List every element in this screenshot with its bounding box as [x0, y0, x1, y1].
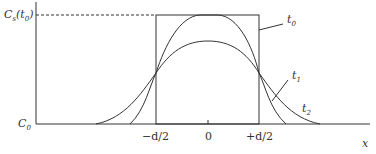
diffusion-profile-diagram	[0, 0, 376, 154]
leader-t1	[272, 80, 288, 101]
tick-label-pos: +d/2	[246, 131, 273, 142]
curve-label-t0: t0	[287, 14, 296, 28]
tick-label-neg: −d/2	[142, 131, 169, 142]
curve-label-t1: t1	[292, 70, 301, 84]
leader-t0	[259, 24, 283, 30]
label-cs-t0: Cs(t0)	[4, 9, 34, 23]
tick-label-zero: 0	[205, 131, 212, 142]
box-profile-t0	[156, 15, 259, 124]
label-c0: C0	[18, 118, 31, 132]
x-axis-label: x	[362, 138, 368, 149]
curve-t1	[130, 15, 286, 124]
curve-label-t2: t2	[302, 103, 311, 117]
